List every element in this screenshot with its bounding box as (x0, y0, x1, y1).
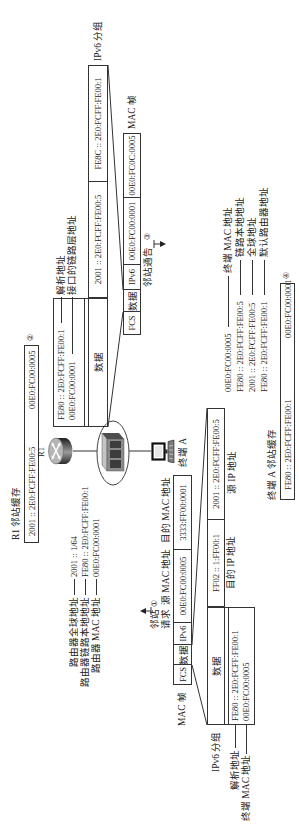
leader-line (61, 297, 62, 323)
na-mac-src: 00E0:FC00:0001 (124, 197, 140, 264)
terminal-link-local-value: FE80 :: 2E0:FCFF:FE00:5 (234, 301, 246, 392)
step-2-badge: ② (25, 334, 37, 341)
terminal-cache-ip: FE80 :: 2E0:FCFF:FE00:1 (282, 399, 294, 490)
terminal-global-value: 2001 :: 2E0:FCFF:FE00:5 (246, 303, 258, 392)
na-mac-frame-label: MAC 帧 (126, 95, 138, 129)
ns-message-label-line2: 请求 (160, 609, 172, 629)
ns-terminal-mac-value: 00E0:FC00:0005 (240, 662, 252, 721)
r1-cache-mac: 00E0:FC00:0005 (26, 350, 38, 409)
step-4-badge: ④ (281, 272, 293, 279)
leader-line (96, 579, 97, 595)
r1-cache-entry: 2001 :: 2E0:FCFF:FE00:5 00E0:FC00:0005 (24, 345, 39, 543)
router-icon (47, 437, 74, 465)
terminal-global-label: 全球地址 (246, 217, 258, 257)
terminal-mac-value: 00E0:FC00:0005 (222, 333, 234, 392)
ns-mac-frame-label: MAC 帧 (176, 692, 188, 726)
terminal-label: 终端 A (177, 438, 189, 467)
ns-dst-mac-label: 目的 MAC 地址 (160, 477, 172, 543)
leader-line (246, 725, 247, 754)
ns-ipv6-packet: 数据 FF02 :: 1:FF00:1 2001 :: 2E0:FCFF:FE0… (207, 408, 225, 725)
na-ipv6-src-address: FE8C :: 2E0:FCFF:FE00:1 (89, 66, 107, 181)
na-link-layer-address-value: 00E0:FC00:0001 (66, 361, 78, 420)
router-label: R1 (35, 447, 47, 457)
ns-src-ip-label: 源 IP 地址 (226, 451, 238, 494)
ns-ipv6-packet-label: IPv6 分组 (210, 732, 222, 772)
terminal-mac-label: 终端 MAC 地址 (222, 207, 234, 273)
leader-line (264, 260, 265, 295)
na-ipv6-dst-address: 2001 :: 2E0:FCFF:FE00:5 (89, 181, 107, 297)
na-message-label: 邻站通告 (142, 247, 154, 287)
ns-terminal-mac-label: 终端 MAC 地址 (240, 755, 252, 821)
na-mac-frame: FCS 数据 IPv6 00E0:FC00:0001 00E0:FC0C:000… (123, 133, 141, 335)
router-mac-value: 00E0:FC00:0001 (90, 518, 102, 577)
step-3-badge: ③ (142, 233, 154, 240)
terminal-cache-mac: 00E0:FC00:0001 (282, 279, 294, 338)
leader-line (72, 297, 73, 354)
terminal-cache-entry: FE80 :: 2E0:FCFF:FE00:1 00E0:FC00:0001 (280, 283, 295, 500)
ns-ipv6-data-field: 数据 (208, 606, 224, 724)
ns-mac-type: IPv6 (174, 622, 191, 644)
terminal-link-local-label: 链路本地地址 (234, 197, 246, 257)
ns-mac-data: 数据 (174, 644, 191, 664)
ns-mac-fcs: FCS (174, 664, 191, 684)
ns-mac-src: 00E0:FC00:0005 (174, 549, 191, 622)
na-mac-dst: 00E0:FC0C:0005 (124, 134, 140, 197)
ipv6-neighbor-discovery-diagram: R1 邻站缓存 2001 :: 2E0:FCFF:FE00:5 00E0:FC0… (0, 0, 299, 829)
terminal-default-router-value: FE80 :: 2E0:FCFF:FE00:1 (258, 301, 270, 392)
router-mac-label: 路由器 MAC 地址 (90, 597, 102, 673)
na-mac-data: 数据 (124, 289, 140, 311)
r1-cache-title: R1 邻站缓存 (10, 487, 22, 540)
ns-ipv6-src-address: 2001 :: 2E0:FCFF:FE00:5 (208, 409, 224, 519)
ns-src-mac-label: 源 MAC 地址 (160, 549, 172, 605)
na-ipv6-packet: 数据 2001 :: 2E0:FCFF:FE00:5 FE8C :: 2E0:F… (88, 65, 108, 427)
computer-icon (151, 439, 175, 463)
ns-ipv6-dst-address: FF02 :: 1:FF00:1 (208, 519, 224, 606)
na-data-divider (84, 298, 85, 427)
leader-line (228, 276, 229, 327)
leader-line (235, 725, 236, 748)
ns-trapezoid-right-line (192, 408, 207, 645)
ns-mac-frame: FCS 数据 IPv6 00E0:FC00:0005 3333:FF00:000… (173, 475, 192, 685)
na-ipv6-data-field: 数据 (89, 297, 107, 426)
na-link-layer-address-label: 接口的链路层地址 (66, 215, 78, 295)
leader-line (252, 260, 253, 295)
na-mac-fcs: FCS (124, 311, 140, 334)
ns-mac-dst: 3333:FF00:0001 (174, 476, 191, 549)
na-trapezoid-left-line (108, 312, 123, 427)
terminal-cache-title: 终端 A 邻站缓存 (266, 429, 278, 500)
r1-cache-ip: 2001 :: 2E0:FCFF:FE00:5 (26, 447, 38, 536)
leader-line (74, 579, 75, 595)
arrow-down-icon (154, 240, 166, 248)
na-ipv6-packet-label: IPv6 分组 (92, 21, 104, 61)
ns-trapezoid-left-line (192, 665, 207, 725)
ns-dst-ip-label: 目的 IP 地址 (225, 536, 237, 589)
na-mac-type: IPv6 (124, 264, 140, 289)
leader-line (240, 260, 241, 295)
switch-icon (101, 431, 126, 473)
na-trapezoid-right-line (108, 65, 123, 290)
terminal-default-router-label: 默认路由器地址 (258, 187, 270, 257)
leader-line (85, 579, 86, 595)
